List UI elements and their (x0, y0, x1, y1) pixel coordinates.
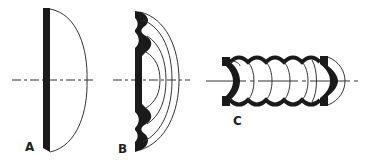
corrugated-plate-b (135, 11, 151, 152)
panel-b (113, 11, 190, 152)
bellows-bottom-c (230, 100, 320, 105)
panel-a (12, 8, 93, 152)
panel-c (206, 56, 358, 106)
diagram-figure (0, 0, 367, 162)
backing-plate-a (43, 8, 50, 152)
bellows-top-c (230, 58, 320, 63)
panel-label-c: C (233, 114, 242, 128)
panel-label-b: B (118, 142, 127, 156)
panel-label-a: A (25, 140, 34, 154)
